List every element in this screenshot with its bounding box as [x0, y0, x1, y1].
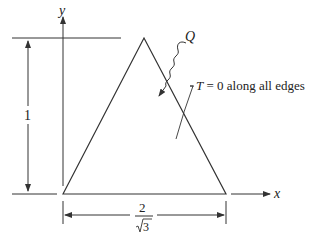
boundary-condition-label: T = 0 along all edges [196, 78, 305, 93]
heat-source-label: Q [185, 29, 195, 44]
x-axis-label: x [273, 186, 281, 201]
boundary-leader-line [176, 86, 194, 139]
heat-source-arrow [159, 42, 186, 96]
y-axis-label: y [57, 3, 66, 18]
height-dimension-label: 1 [24, 108, 31, 123]
base-dimension-label: 2 3 [135, 200, 153, 234]
triangle-domain [63, 38, 226, 194]
svg-text:3: 3 [143, 220, 149, 234]
svg-text:2: 2 [139, 200, 146, 215]
diagram-canvas: y x 1 2 3 Q T = 0 along all edges [0, 0, 335, 241]
